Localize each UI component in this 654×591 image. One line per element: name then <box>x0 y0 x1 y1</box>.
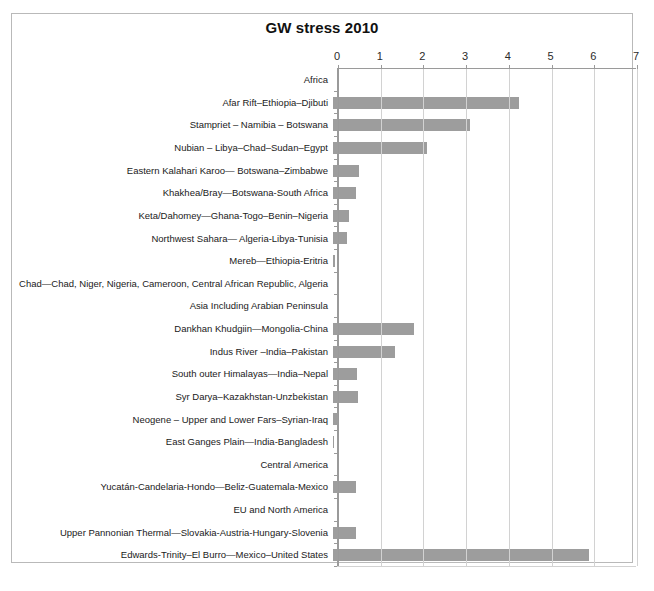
bar-cell <box>333 341 632 364</box>
category-label: Edwards-Trinity–El Burro—Mexico–United S… <box>13 550 333 560</box>
bar-cell <box>333 363 632 386</box>
bar-row[interactable]: Central America <box>13 454 654 477</box>
x-tick-label-1: 1 <box>377 50 383 62</box>
bar-cell <box>333 408 632 431</box>
bar-cell <box>333 69 632 92</box>
category-label: Khakhea/Bray—Botswana-South Africa <box>13 188 333 198</box>
bar-cell <box>333 137 632 160</box>
category-label: Keta/Dahomey—Ghana-Togo–Benin–Nigeria <box>13 211 333 221</box>
category-label: Central America <box>13 460 333 470</box>
x-tick-label-7: 7 <box>633 50 639 62</box>
bar-row[interactable]: Stampriet – Namibia – Botswana <box>13 114 654 137</box>
category-label: EU and North America <box>13 505 333 515</box>
category-label: South outer Himalayas—India–Nepal <box>13 369 333 379</box>
bar-cell <box>333 295 632 318</box>
category-label: East Ganges Plain—India-Bangladesh <box>13 437 333 447</box>
x-tick-label-5: 5 <box>548 50 554 62</box>
gridline-5 <box>552 69 553 566</box>
bar-cell <box>333 227 632 250</box>
category-label: Dankhan Khudgiin—Mongolia-China <box>13 324 333 334</box>
bar[interactable] <box>333 346 395 358</box>
bar-row[interactable]: Asia Including Arabian Peninsula <box>13 295 654 318</box>
bar[interactable] <box>333 255 335 267</box>
bar-cell <box>333 431 632 454</box>
bar[interactable] <box>333 165 359 177</box>
plot-bottom-edge <box>337 566 636 567</box>
category-label: Mereb—Ethiopia-Eritria <box>13 256 333 266</box>
gridline-4 <box>509 69 510 566</box>
bar-row[interactable]: Afar Rift–Ethiopia–Djibuti <box>13 92 654 115</box>
bar-cell <box>333 114 632 137</box>
bar-row[interactable]: Northwest Sahara— Algeria-Libya-Tunisia <box>13 227 654 250</box>
x-tickmark-1 <box>381 65 382 69</box>
category-label: Upper Pannonian Thermal—Slovakia-Austria… <box>13 528 333 538</box>
bar-cell <box>333 499 632 522</box>
bar[interactable] <box>333 481 356 493</box>
bar-cell <box>333 522 632 545</box>
x-tickmark-5 <box>552 65 553 69</box>
bar-cell <box>333 273 632 296</box>
bar[interactable] <box>333 187 356 199</box>
x-tick-label-0: 0 <box>334 50 340 62</box>
gridline-3 <box>466 69 467 566</box>
bar-row[interactable]: Syr Darya–Kazakhstan-Unzbekistan <box>13 386 654 409</box>
gridline-2 <box>423 69 424 566</box>
bar-row[interactable]: South outer Himalayas—India–Nepal <box>13 363 654 386</box>
bar-cell <box>333 92 632 115</box>
gridline-1 <box>381 69 382 566</box>
bar-row[interactable]: Khakhea/Bray—Botswana-South Africa <box>13 182 654 205</box>
bar[interactable] <box>333 119 470 131</box>
bar-row[interactable]: Dankhan Khudgiin—Mongolia-China <box>13 318 654 341</box>
x-tick-label-2: 2 <box>419 50 425 62</box>
category-label: Asia Including Arabian Peninsula <box>13 301 333 311</box>
bar[interactable] <box>333 323 414 335</box>
bar-row[interactable]: Eastern Kalahari Karoo— Botswana–Zimbabw… <box>13 160 654 183</box>
bar[interactable] <box>333 527 356 539</box>
x-axis-tick-labels: 01234567 <box>337 50 636 66</box>
gridline-6 <box>594 69 595 566</box>
bar-row[interactable]: Chad—Chad, Niger, Nigeria, Cameroon, Cen… <box>13 273 654 296</box>
category-label: Stampriet – Namibia – Botswana <box>13 120 333 130</box>
category-label: Nubian – Libya–Chad–Sudan–Egypt <box>13 143 333 153</box>
category-label: Syr Darya–Kazakhstan-Unzbekistan <box>13 392 333 402</box>
bar[interactable] <box>333 436 334 448</box>
bar-cell <box>333 205 632 228</box>
bar-row[interactable]: Keta/Dahomey—Ghana-Togo–Benin–Nigeria <box>13 205 654 228</box>
x-tickmark-2 <box>423 65 424 69</box>
x-tick-label-3: 3 <box>462 50 468 62</box>
x-tickmark-0 <box>338 65 339 69</box>
chart-title: GW stress 2010 <box>12 19 632 36</box>
bar-row[interactable]: Neogene – Upper and Lower Fars–Syrian-Ir… <box>13 408 654 431</box>
category-label: Afar Rift–Ethiopia–Djibuti <box>13 98 333 108</box>
bar-row[interactable]: East Ganges Plain—India-Bangladesh <box>13 431 654 454</box>
x-tickmark-7 <box>637 65 638 69</box>
bar-row[interactable]: Yucatán-Candelaria-Hondo—Beliz-Guatemala… <box>13 476 654 499</box>
bar[interactable] <box>333 232 347 244</box>
gridline-7 <box>637 69 638 566</box>
x-tickmark-3 <box>466 65 467 69</box>
chart-frame: GW stress 2010 01234567 AfricaAfar Rift–… <box>11 13 633 563</box>
bar-row[interactable]: Africa <box>13 69 654 92</box>
bar-row[interactable]: Nubian – Libya–Chad–Sudan–Egypt <box>13 137 654 160</box>
category-label: Indus River –India–Pakistan <box>13 347 333 357</box>
bar-row[interactable]: Mereb—Ethiopia-Eritria <box>13 250 654 273</box>
x-tickmark-4 <box>509 65 510 69</box>
x-tick-label-4: 4 <box>505 50 511 62</box>
gridline-0 <box>338 69 339 566</box>
bar-cell <box>333 160 632 183</box>
bar[interactable] <box>333 97 519 109</box>
category-label: Chad—Chad, Niger, Nigeria, Cameroon, Cen… <box>13 279 333 289</box>
bar-row[interactable]: EU and North America <box>13 499 654 522</box>
bar[interactable] <box>333 391 358 403</box>
bar-cell <box>333 454 632 477</box>
bar-row[interactable]: Indus River –India–Pakistan <box>13 341 654 364</box>
bar-row[interactable]: Edwards-Trinity–El Burro—Mexico–United S… <box>13 544 654 567</box>
bar[interactable] <box>333 368 357 380</box>
bar-cell <box>333 386 632 409</box>
bar-cell <box>333 250 632 273</box>
category-label: Northwest Sahara— Algeria-Libya-Tunisia <box>13 234 333 244</box>
bar-cell <box>333 318 632 341</box>
bar[interactable] <box>333 210 349 222</box>
bar-row[interactable]: Upper Pannonian Thermal—Slovakia-Austria… <box>13 522 654 545</box>
category-label: Eastern Kalahari Karoo— Botswana–Zimbabw… <box>13 166 333 176</box>
